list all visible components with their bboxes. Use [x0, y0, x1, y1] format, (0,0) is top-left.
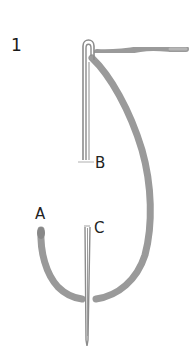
thread-loop-right: [92, 58, 150, 299]
needle-and-thread-illustration: [0, 0, 192, 360]
thread-end-a: [37, 227, 45, 239]
needle-lower: [84, 226, 90, 346]
label-point-a: A: [35, 207, 45, 222]
label-point-c: C: [94, 221, 104, 236]
thread-loop-left: [41, 230, 82, 299]
label-point-b: B: [95, 156, 105, 171]
stitch-diagram: 1 A B C: [0, 0, 192, 360]
step-number: 1: [11, 37, 22, 54]
